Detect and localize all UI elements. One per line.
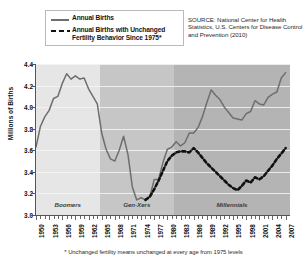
legend-label-annual-births: Annual Births: [72, 14, 114, 22]
x-tick-mark: [75, 216, 76, 220]
x-tick-mark: [159, 216, 160, 219]
x-tick-mark: [229, 216, 230, 219]
x-tick-mark: [277, 216, 278, 219]
x-tick-label: 1968: [117, 224, 124, 238]
legend-item-unchanged-fertility: Annual Births with Unchanged Fertility B…: [50, 26, 179, 41]
legend-label-unchanged-fertility: Annual Births with Unchanged Fertility B…: [72, 26, 179, 41]
x-tick-label: 1959: [78, 224, 85, 238]
x-tick-mark: [106, 216, 107, 219]
x-tick-mark: [154, 216, 155, 220]
x-tick-mark: [216, 216, 217, 219]
x-tick-mark: [97, 216, 98, 219]
x-tick-mark: [45, 216, 46, 219]
x-tick-label: 1974: [144, 224, 151, 238]
x-tick-mark: [198, 216, 199, 219]
x-tick-label: 2001: [262, 224, 269, 238]
series-line-unchanged-fertility: [145, 148, 285, 200]
x-tick-label: 1965: [104, 224, 111, 238]
x-tick-mark: [185, 216, 186, 219]
x-tick-mark: [40, 216, 41, 219]
plot-area: Boomers Gen-Xers Millennials: [36, 64, 290, 215]
x-tick-mark: [207, 216, 208, 220]
x-tick-mark: [211, 216, 212, 219]
x-tick-mark: [237, 216, 238, 219]
x-tick-label: 1995: [235, 224, 242, 238]
x-tick-mark: [84, 216, 85, 219]
x-tick-mark: [124, 216, 125, 219]
x-tick-mark: [71, 216, 72, 219]
x-tick-label: 1992: [222, 224, 229, 238]
x-tick-mark: [224, 216, 225, 219]
x-tick-label: 1989: [209, 224, 216, 238]
x-tick-label: 1980: [170, 224, 177, 238]
x-tick-mark: [264, 216, 265, 219]
x-tick-label: 1953: [52, 224, 59, 238]
x-tick-mark: [246, 216, 247, 220]
x-tick-mark: [272, 216, 273, 220]
x-tick-mark: [255, 216, 256, 219]
x-tick-label: 1998: [249, 224, 256, 238]
x-tick-label: 1950: [38, 224, 45, 238]
x-tick-label: 1986: [196, 224, 203, 238]
x-tick-mark: [102, 216, 103, 220]
x-tick-mark: [89, 216, 90, 220]
x-tick-mark: [194, 216, 195, 220]
y-axis-title: Millions of Births: [7, 74, 14, 154]
x-tick-label: 2007: [288, 224, 295, 238]
x-tick-mark: [220, 216, 221, 220]
x-tick-label: 1983: [183, 224, 190, 238]
x-tick-mark: [176, 216, 177, 219]
x-tick-mark: [286, 216, 287, 220]
x-tick-label: 1971: [130, 224, 137, 238]
x-tick-mark: [268, 216, 269, 219]
x-tick-mark: [132, 216, 133, 219]
x-tick-mark: [281, 216, 282, 219]
y-axis: 3.03.23.43.63.84.04.24.4: [0, 64, 36, 215]
y-tick-mark: [31, 86, 36, 87]
dashed-line-swatch-icon: [50, 27, 72, 36]
y-tick-mark: [31, 64, 36, 65]
x-tick-mark: [62, 216, 63, 220]
x-tick-mark: [202, 216, 203, 219]
x-tick-mark: [141, 216, 142, 220]
chart-lines: [36, 64, 290, 215]
x-tick-mark: [58, 216, 59, 219]
y-tick-mark: [31, 193, 36, 194]
x-axis: 1950195319561959196219651968197119741977…: [36, 216, 290, 246]
band-label-millennials: Millennials: [192, 201, 272, 208]
x-tick-mark: [115, 216, 116, 220]
x-tick-mark: [67, 216, 68, 219]
source-note: SOURCE: National Center for Health Stati…: [188, 16, 304, 38]
x-tick-mark: [242, 216, 243, 219]
solid-line-swatch-icon: [50, 15, 72, 24]
y-tick-mark: [31, 150, 36, 151]
x-tick-mark: [145, 216, 146, 219]
x-tick-mark: [172, 216, 173, 219]
x-tick-mark: [110, 216, 111, 219]
x-tick-mark: [150, 216, 151, 219]
x-tick-mark: [93, 216, 94, 219]
x-tick-mark: [251, 216, 252, 219]
x-tick-mark: [189, 216, 190, 219]
x-tick-mark: [54, 216, 55, 219]
x-tick-mark: [163, 216, 164, 219]
chart-legend: Annual Births Annual Births with Unchang…: [45, 10, 184, 46]
x-tick-mark: [233, 216, 234, 220]
legend-item-annual-births: Annual Births: [50, 14, 179, 24]
band-label-gen-xers: Gen-Xers: [97, 201, 177, 208]
x-tick-mark: [49, 216, 50, 220]
x-tick-mark: [167, 216, 168, 220]
x-tick-mark: [128, 216, 129, 220]
x-tick-mark: [137, 216, 138, 219]
x-tick-mark: [259, 216, 260, 220]
x-tick-label: 1956: [65, 224, 72, 238]
y-tick-mark: [31, 172, 36, 173]
x-tick-label: 1977: [157, 224, 164, 238]
x-tick-label: 2004: [275, 224, 282, 238]
x-tick-label: 1962: [91, 224, 98, 238]
x-tick-mark: [36, 216, 37, 220]
y-tick-mark: [31, 107, 36, 108]
x-tick-mark: [80, 216, 81, 219]
x-tick-mark: [119, 216, 120, 219]
x-tick-mark: [181, 216, 182, 220]
